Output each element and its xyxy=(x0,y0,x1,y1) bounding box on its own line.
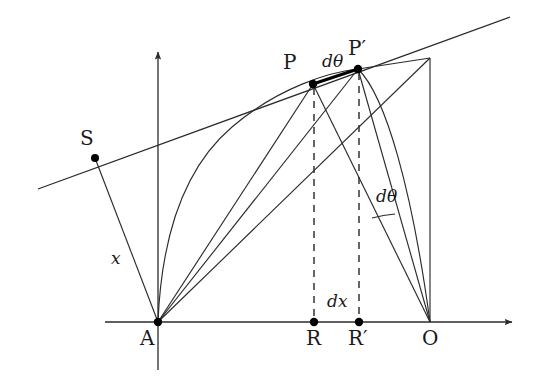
point-dot-R xyxy=(310,318,318,326)
point-dot-S xyxy=(91,154,99,162)
label-point-S: S xyxy=(80,128,94,148)
tangent-line xyxy=(38,17,510,189)
figure-canvas xyxy=(0,0,553,385)
label-point-R-prime-letter: R xyxy=(348,326,363,350)
bold-segment-P-to-P-prime xyxy=(313,69,358,84)
axes-group xyxy=(105,52,512,370)
segment-O-P xyxy=(313,84,430,322)
label-point-P-prime-mark: ′ xyxy=(361,36,366,60)
segment-A-P xyxy=(158,84,313,322)
label-differential-dtheta-top: dθ xyxy=(322,53,343,70)
label-differential-dtheta-right: dθ xyxy=(376,188,397,205)
point-dot-P xyxy=(309,80,317,88)
geometry-figure: S P P′ A R R′ O x dx dθ dθ xyxy=(0,0,553,385)
point-dot-A xyxy=(154,318,162,326)
label-point-O: O xyxy=(422,328,438,348)
label-point-R: R xyxy=(306,328,321,348)
rays-from-O xyxy=(313,58,430,322)
label-point-A: A xyxy=(140,328,154,348)
label-differential-dx: dx xyxy=(327,293,347,310)
label-point-R-prime: R′ xyxy=(348,328,368,348)
point-dot-P-prime xyxy=(354,65,362,73)
segment-A-S xyxy=(95,158,158,322)
dashed-drop-lines xyxy=(314,73,359,318)
point-dot-R-prime xyxy=(355,318,363,326)
label-point-P: P xyxy=(283,52,296,72)
angle-arc-dtheta-at-O xyxy=(372,214,395,218)
label-length-x: x xyxy=(111,250,121,267)
label-point-P-prime-letter: P xyxy=(348,36,361,60)
label-point-P-prime: P′ xyxy=(348,38,366,58)
label-point-R-prime-mark: ′ xyxy=(363,326,368,350)
